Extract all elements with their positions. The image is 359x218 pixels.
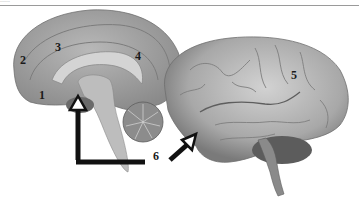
label-3: 3 xyxy=(55,40,61,55)
brain-figure xyxy=(0,0,359,218)
lateral-brain-view xyxy=(164,37,348,196)
arrow-6-diagonal xyxy=(170,134,196,160)
label-5: 5 xyxy=(291,68,297,83)
label-1: 1 xyxy=(39,88,45,103)
label-2: 2 xyxy=(20,53,26,68)
label-6: 6 xyxy=(153,149,159,164)
label-4: 4 xyxy=(135,49,141,64)
